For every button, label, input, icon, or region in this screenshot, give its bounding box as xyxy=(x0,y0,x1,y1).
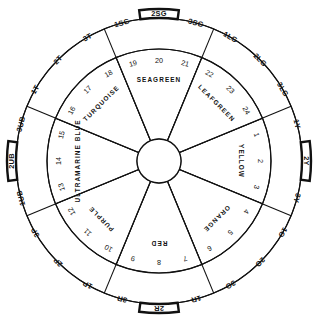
chip-label-3LG: 3LG xyxy=(275,81,290,99)
chip-label-2SG: 2SG xyxy=(151,9,167,18)
chip-label-3SG: 3SG xyxy=(187,16,204,29)
step-number-20: 20 xyxy=(155,56,163,65)
hue-name-yellow: YELLOW xyxy=(238,144,245,178)
hue-name-seagreen: SEAGREEN xyxy=(137,76,182,83)
chip-label-2R: 2R xyxy=(154,304,164,313)
chip-label-3O: 3O xyxy=(224,278,238,291)
chip-label-1P: 1P xyxy=(81,279,94,292)
chip-label-2Y: 2Y xyxy=(302,156,311,166)
chip-label-1Y: 1Y xyxy=(292,118,303,130)
chip-label-1T: 1T xyxy=(29,83,41,96)
hue-name-red: RED xyxy=(151,240,168,247)
chip-label-1LG: 1LG xyxy=(222,29,240,44)
chip-label-1O: 1O xyxy=(276,226,289,240)
chip-label-3Y: 3Y xyxy=(292,192,303,204)
chip-label-3R: 3R xyxy=(116,293,128,304)
chip-label-3UB: 3UB xyxy=(14,115,27,132)
chip-label-1SG: 1SG xyxy=(113,16,130,29)
chip-label-3P: 3P xyxy=(29,226,42,239)
chip-label-1R: 1R xyxy=(190,293,202,304)
color-wheel-svg: 1Y12Y23Y3YELLOW1O42O53O6ORANGE1R72R83R9R… xyxy=(0,0,318,317)
step-number-14: 14 xyxy=(54,157,63,165)
chip-label-1UB: 1UB xyxy=(14,189,27,206)
center-hub xyxy=(137,139,181,183)
chip-label-2UB: 2UB xyxy=(7,153,16,169)
chip-label-3T: 3T xyxy=(81,31,94,43)
hue-name-ultramarine-blue: ULTRAMARINE BLUE xyxy=(74,119,81,202)
color-wheel-diagram: 1Y12Y23Y3YELLOW1O42O53O6ORANGE1R72R83R9R… xyxy=(0,0,318,317)
step-number-2: 2 xyxy=(256,159,265,163)
step-number-8: 8 xyxy=(157,258,161,267)
